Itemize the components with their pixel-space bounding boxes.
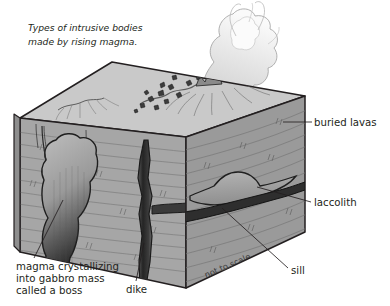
figure-title: Types of intrusive bodies made by rising… (28, 22, 143, 47)
left-face (14, 114, 20, 252)
dike-label: dike (126, 284, 147, 295)
intrusive-bodies-block-diagram: Types of intrusive bodies made by rising… (0, 0, 390, 306)
sill-label: sill (291, 265, 305, 276)
block-left-face (14, 114, 20, 252)
buried-lavas-label: buried lavas (314, 117, 377, 128)
boss-label-line3: called a boss (16, 285, 82, 296)
figure-title-line1: Types of intrusive bodies (28, 22, 143, 33)
boss-label-line2: into gabbro mass (16, 273, 105, 284)
boss-label-line1: magma crystallizing (16, 261, 119, 272)
figure-title-line2: made by rising magma. (28, 36, 137, 47)
laccolith-label: laccolith (314, 197, 357, 208)
